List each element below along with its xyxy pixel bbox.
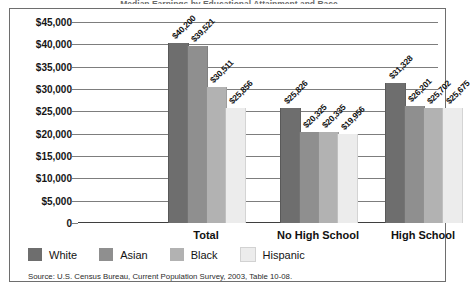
y-axis-tick-label: $15,000 [36,151,72,162]
y-axis-tick-label: $45,000 [36,17,72,28]
bar [299,132,320,223]
source-note: Source: U.S. Census Bureau, Current Popu… [28,272,292,281]
gridline [78,89,438,90]
x-axis-category-label: High School [391,229,455,241]
bar-value-label: $31,328 [386,53,414,81]
chart-frame: 0$5,000$10,000$15,000$20,000$25,000$30,0… [9,8,446,282]
y-axis-tick [72,111,78,112]
y-axis-tick [72,22,78,23]
x-axis-line [78,222,438,223]
bar-group: $40,200$39,521$30,511$25,856Total [168,22,244,223]
chart-legend: WhiteAsianBlackHispanic [28,247,327,262]
bar [423,108,444,223]
gridline [78,201,438,202]
y-axis-tick-label: $5,000 [41,195,72,206]
gridline [78,111,438,112]
y-axis-tick [72,223,78,224]
bar [168,43,189,223]
bar [318,132,339,223]
bar [337,134,358,223]
legend-item: Black [170,248,218,261]
gridline [78,22,438,23]
gridline [78,156,438,157]
legend-swatch [99,248,113,261]
gridline [78,67,438,68]
y-axis-tick-label: $20,000 [36,128,72,139]
gridline [78,134,438,135]
plot-area: 0$5,000$10,000$15,000$20,000$25,000$30,0… [78,22,438,223]
y-axis-tick-label: 0 [66,218,72,229]
bar-group: $31,328$26,201$25,702$25,675High School [385,22,461,223]
y-axis-tick-label: $10,000 [36,173,72,184]
y-axis-tick [72,44,78,45]
y-axis-tick-label: $30,000 [36,84,72,95]
legend-item: Asian [99,248,148,261]
bar [187,46,208,223]
legend-item: Hispanic [240,247,305,262]
y-axis-tick [72,134,78,135]
y-axis-tick [72,67,78,68]
legend-label: Hispanic [263,249,305,261]
y-axis-tick-label: $40,000 [36,39,72,50]
legend-item: White [28,248,77,261]
bar [404,106,425,223]
legend-label: Asian [120,249,148,261]
bar [442,108,463,223]
bar-group: $25,826$20,325$20,335$19,956No High Scho… [280,22,356,223]
bar-value-label: $30,511 [207,57,234,84]
chart-title-clipped: Median Earnings by Educational Attainmen… [0,0,458,4]
x-axis-category-label: Total [193,229,218,241]
y-axis-tick [72,201,78,202]
y-axis-tick [72,89,78,90]
bar [206,87,227,223]
y-axis-tick-label: $35,000 [36,61,72,72]
y-axis-tick-label: $25,000 [36,106,72,117]
gridline [78,178,438,179]
legend-label: Black [191,249,218,261]
legend-swatch [28,248,42,261]
gridline [78,44,438,45]
legend-swatch [170,248,184,261]
bar [280,108,301,223]
bar-value-label: $25,856 [226,78,254,106]
bar [225,108,246,223]
x-axis-category-label: No High School [277,229,359,241]
legend-swatch [240,247,256,262]
bar-value-label: $25,826 [281,78,309,106]
y-axis-tick [72,178,78,179]
y-axis-tick [72,156,78,157]
bar [385,83,406,223]
legend-label: White [49,249,77,261]
